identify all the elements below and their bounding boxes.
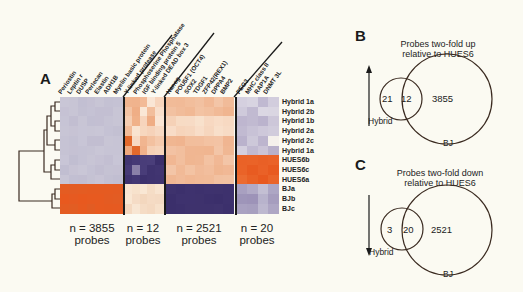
up-hybrid-only: 21	[382, 93, 393, 104]
down-hybrid-only: 3	[387, 224, 392, 235]
row-label: HUES6a	[282, 176, 309, 183]
heatmap-cell	[223, 204, 233, 214]
row-label: Hybrid 1a	[282, 98, 314, 105]
row-label: BJc	[282, 205, 295, 212]
row-label: Hybrid 2a	[282, 127, 314, 134]
heatmap-cell	[155, 204, 163, 214]
block2-n: n = 12	[118, 222, 168, 234]
block-separator	[164, 97, 166, 215]
block4-count: n = 20 probes	[230, 222, 284, 246]
dendrogram	[0, 0, 70, 230]
up-bj-label: BJ	[443, 138, 453, 148]
block4-n: n = 20	[230, 222, 284, 234]
row-label: BJa	[282, 185, 295, 192]
row-label: HUES6b	[282, 156, 310, 163]
row-label: Hybrid 2c	[282, 137, 314, 144]
block3-count: n = 2521 probes	[164, 222, 234, 246]
heatmap-cell	[268, 204, 279, 214]
row-label: Hybrid 2b	[282, 108, 314, 115]
up-bj-only: 3855	[432, 93, 453, 104]
block1-count: n = 3855 probes	[58, 222, 126, 246]
heatmap-cell	[258, 204, 269, 214]
row-label: BJb	[282, 195, 295, 202]
block2-unit: probes	[118, 234, 168, 246]
down-bj-only: 2521	[431, 224, 452, 235]
up-overlap: 12	[401, 93, 412, 104]
block1-unit: probes	[58, 234, 126, 246]
row-label: Hybrid 1b	[282, 117, 314, 124]
row-label: HUES6c	[282, 166, 309, 173]
down-bj-label: BJ	[443, 269, 453, 279]
block-separator	[235, 97, 237, 215]
block3-unit: probes	[164, 234, 234, 246]
venn-diagram-down	[340, 150, 520, 280]
row-label: Hybrid 1a	[282, 147, 314, 154]
block2-count: n = 12 probes	[118, 222, 168, 246]
block4-unit: probes	[230, 234, 284, 246]
down-overlap: 20	[403, 224, 414, 235]
down-hybrid-label: Hybrid	[369, 247, 394, 257]
block-separator	[123, 97, 125, 215]
heatmap-cell	[113, 204, 122, 214]
heatmap-cell	[237, 204, 248, 214]
venn-diagram-up	[340, 20, 520, 150]
heatmap-cell	[247, 204, 258, 214]
block3-n: n = 2521	[164, 222, 234, 234]
up-hybrid-label: Hybrid	[368, 116, 393, 126]
block1-n: n = 3855	[58, 222, 126, 234]
